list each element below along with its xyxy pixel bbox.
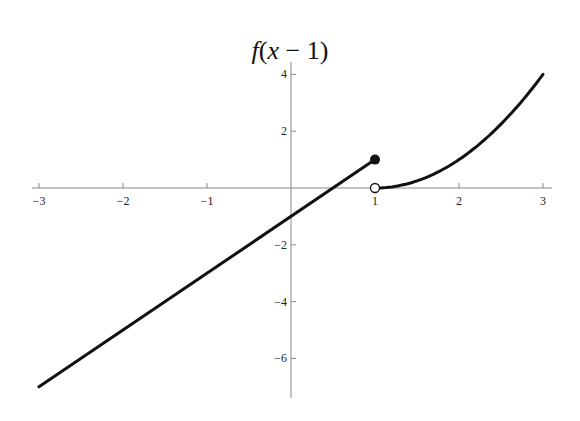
x-tick-label: −1 [201, 194, 214, 208]
y-tick-label: 2 [281, 124, 287, 138]
open-endpoint-circle [371, 184, 380, 193]
closed-endpoint-dot [370, 155, 380, 165]
y-tick-label: −4 [274, 295, 287, 309]
y-tick-label: −6 [274, 351, 287, 365]
y-tick-label: −2 [274, 238, 287, 252]
x-tick-label: 1 [372, 194, 378, 208]
x-tick-label: 3 [540, 194, 546, 208]
y-tick-label: 4 [281, 67, 287, 81]
right-curve [375, 74, 543, 188]
x-tick-label: 2 [456, 194, 462, 208]
x-tick-label: −2 [117, 194, 130, 208]
x-tick-label: −3 [33, 194, 46, 208]
plot-area: −3−2−1123−6−4−224 [0, 0, 580, 421]
